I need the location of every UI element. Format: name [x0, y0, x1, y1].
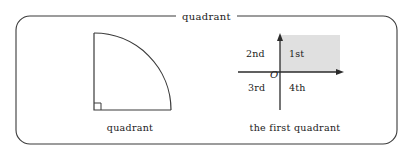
quarter-circle-svg [86, 27, 178, 117]
coordinate-axes-caption: the first quadrant [205, 122, 385, 133]
coordinate-axes-figure [232, 28, 350, 116]
quadrant-label-third: 3rd [248, 82, 265, 93]
quarter-circle-figure [86, 27, 178, 117]
coordinate-axes-svg [232, 28, 350, 116]
origin-label: O [270, 69, 278, 80]
frame-legend-label: quadrant [176, 11, 237, 22]
quadrant-label-second: 2nd [246, 48, 265, 59]
right-angle-marker [94, 103, 101, 110]
frame-legend: quadrant [0, 11, 413, 23]
quadrant-label-fourth: 4th [289, 82, 306, 93]
outer-frame [0, 0, 413, 159]
quarter-circle-arc [94, 33, 171, 110]
figure-page: quadrant quadrant 2nd 1st 3rd 4th O the … [0, 0, 413, 159]
quarter-circle-radii [94, 33, 171, 110]
quadrant-label-first: 1st [289, 48, 304, 59]
